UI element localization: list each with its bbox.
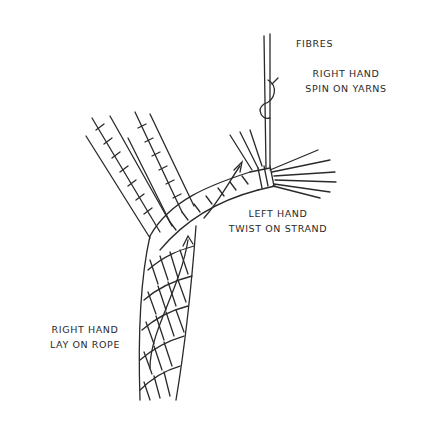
- rope-body: [139, 226, 196, 400]
- rope-diagram: FIBRES RIGHT HAND SPIN ON YARNS LEFT HAN…: [0, 0, 424, 425]
- label-yarn-spin-line1: RIGHT HAND: [296, 66, 396, 81]
- label-strand-twist: LEFT HAND TWIST ON STRAND: [218, 206, 338, 236]
- label-fibres: FIBRES: [296, 36, 333, 51]
- label-yarn-spin-line2: SPIN ON YARNS: [296, 81, 396, 96]
- label-yarn-spin: RIGHT HAND SPIN ON YARNS: [296, 66, 396, 96]
- label-strand-twist-line1: LEFT HAND: [218, 206, 338, 221]
- label-strand-twist-line2: TWIST ON STRAND: [218, 221, 338, 236]
- label-rope-lay-line2: LAY ON ROPE: [40, 337, 130, 352]
- label-rope-lay-line1: RIGHT HAND: [40, 322, 130, 337]
- fibre-tuft: [230, 130, 336, 198]
- label-rope-lay: RIGHT HAND LAY ON ROPE: [40, 322, 130, 352]
- rope-illustration: [0, 0, 424, 425]
- yarn-spin: [260, 34, 278, 168]
